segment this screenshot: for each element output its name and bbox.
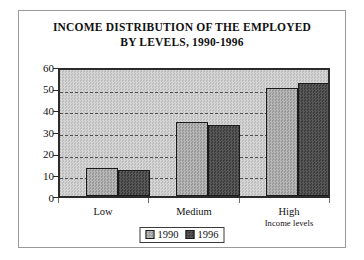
y-tick-label-40: 40 bbox=[32, 106, 54, 117]
chart-figure: INCOME DISTRIBUTION OF THE EMPLOYED BY L… bbox=[18, 10, 346, 248]
y-tick-label-60: 60 bbox=[32, 63, 54, 74]
bar-high-1996 bbox=[298, 83, 330, 196]
x-axis-tick-marks bbox=[58, 198, 330, 204]
x-tick-mark-medium bbox=[239, 198, 240, 203]
bar-low-1996 bbox=[118, 170, 150, 196]
legend-label-1990: 1990 bbox=[158, 229, 179, 240]
bar-medium-1996 bbox=[208, 125, 240, 197]
chart-legend: 1990 1996 bbox=[140, 227, 225, 243]
x-tick-mark-low bbox=[148, 198, 149, 203]
chart-title-line-2: BY LEVELS, 1990-1996 bbox=[19, 35, 345, 50]
chart-title: INCOME DISTRIBUTION OF THE EMPLOYED BY L… bbox=[19, 20, 345, 50]
plot-area bbox=[58, 68, 330, 198]
legend-entry-1990: 1990 bbox=[146, 229, 179, 240]
y-tick-label-20: 20 bbox=[32, 149, 54, 160]
x-tick-mark-high bbox=[329, 198, 330, 203]
x-category-low-label: Low bbox=[93, 206, 112, 217]
legend-swatch-1990-icon bbox=[146, 230, 155, 239]
bar-high-1990 bbox=[266, 88, 298, 196]
legend-label-1996: 1996 bbox=[198, 229, 219, 240]
y-tick-label-30: 30 bbox=[32, 128, 54, 139]
bar-low-1990 bbox=[86, 168, 118, 196]
y-tick-label-0: 0 bbox=[32, 193, 54, 204]
x-category-medium-label: Medium bbox=[176, 206, 212, 217]
x-category-high-label: High bbox=[279, 206, 300, 217]
bar-medium-1990 bbox=[176, 122, 208, 196]
legend-entry-1996: 1996 bbox=[186, 229, 219, 240]
x-category-medium: Medium bbox=[163, 205, 225, 218]
x-category-high: High Income levels bbox=[253, 205, 325, 229]
chart-title-line-1: INCOME DISTRIBUTION OF THE EMPLOYED bbox=[19, 20, 345, 35]
y-tick-label-10: 10 bbox=[32, 171, 54, 182]
x-tick-mark-start bbox=[58, 198, 59, 203]
x-category-low: Low bbox=[72, 205, 134, 218]
x-axis-title: Income levels bbox=[253, 218, 325, 229]
y-tick-label-50: 50 bbox=[32, 84, 54, 95]
y-axis-labels: 60 50 40 30 20 10 0 bbox=[28, 68, 54, 198]
legend-swatch-1996-icon bbox=[186, 230, 195, 239]
